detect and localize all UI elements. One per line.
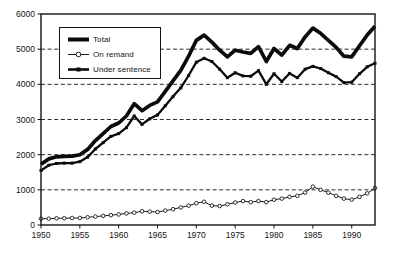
y-tick-label: 2000 (16, 150, 35, 160)
chart-figure: 0100020003000400050006000195019551960196… (0, 0, 398, 255)
on-remand-marker (327, 191, 331, 195)
under-sentence-marker (265, 83, 268, 86)
x-tick-label: 1965 (148, 230, 167, 240)
under-sentence-marker (195, 61, 198, 64)
on-remand-marker (334, 194, 338, 198)
on-remand-marker (78, 216, 82, 220)
under-sentence-marker (218, 68, 221, 71)
on-remand-marker (109, 213, 113, 217)
on-remand-marker (86, 215, 90, 219)
under-sentence-marker (86, 156, 89, 159)
on-remand-marker (140, 209, 144, 213)
on-remand-marker (117, 213, 121, 217)
under-sentence-marker (133, 114, 136, 117)
under-sentence-marker (117, 132, 120, 135)
on-remand-marker (342, 197, 346, 201)
on-remand-marker (218, 204, 222, 208)
under-sentence-marker (102, 141, 105, 144)
under-sentence-marker (226, 76, 229, 79)
x-tick-label: 1960 (109, 230, 128, 240)
under-sentence-marker (63, 162, 66, 165)
on-remand-marker (94, 215, 98, 219)
under-sentence-marker (280, 80, 283, 83)
y-tick-label: 0 (30, 220, 35, 230)
under-sentence-marker (94, 148, 97, 151)
on-remand-marker (257, 199, 261, 203)
on-remand-marker (171, 207, 175, 211)
on-remand-marker (163, 209, 167, 213)
on-remand-marker (47, 217, 51, 221)
y-tick-label: 4000 (16, 79, 35, 89)
under-sentence-marker (125, 126, 128, 129)
on-remand-marker (303, 191, 307, 195)
on-remand-marker (272, 198, 276, 202)
on-remand-marker (288, 195, 292, 199)
legend-label-under-sentence: Under sentence (93, 65, 151, 74)
under-sentence-marker (172, 95, 175, 98)
x-tick-label: 1980 (265, 230, 284, 240)
on-remand-marker (210, 204, 214, 208)
under-sentence-marker (164, 104, 167, 107)
y-tick-label: 1000 (16, 185, 35, 195)
under-sentence-marker (47, 164, 50, 167)
under-sentence-marker (241, 74, 244, 77)
x-tick-label: 1990 (342, 230, 361, 240)
under-sentence-marker (187, 74, 190, 77)
on-remand-marker (125, 212, 129, 216)
under-sentence-marker (366, 65, 369, 68)
under-sentence-marker (140, 123, 143, 126)
on-remand-marker (296, 194, 300, 198)
on-remand-marker (319, 188, 323, 192)
on-remand-marker (195, 201, 199, 205)
on-remand-marker (264, 200, 268, 204)
under-sentence-marker (78, 160, 81, 163)
under-sentence-marker (342, 81, 345, 84)
on-remand-marker (55, 217, 59, 221)
on-remand-marker (280, 197, 284, 201)
on-remand-line (41, 187, 375, 219)
on-remand-marker (233, 201, 237, 205)
on-remand-marker (350, 198, 354, 202)
x-tick-label: 1970 (187, 230, 206, 240)
under-sentence-marker (156, 113, 159, 116)
under-sentence-marker (304, 68, 307, 71)
under-sentence-marker (358, 72, 361, 75)
y-tick-label: 5000 (16, 44, 35, 54)
total-line-swatch-icon (67, 35, 90, 44)
x-tick-label: 1955 (70, 230, 89, 240)
on-remand-marker (311, 185, 315, 189)
under-sentence-marker (311, 65, 314, 68)
under-sentence-marker (203, 57, 206, 60)
under-sentence-marker (319, 67, 322, 70)
on-remand-marker (156, 210, 160, 214)
legend-label-on-remand: On remand (93, 50, 134, 59)
under-sentence-marker (234, 71, 237, 74)
legend-item-under-sentence: Under sentence (60, 62, 160, 77)
x-tick-label: 1975 (226, 230, 245, 240)
on-remand-marker (179, 206, 183, 210)
under-sentence-marker (210, 60, 213, 63)
on-remand-marker (70, 216, 74, 220)
legend-label-total: Total (93, 35, 110, 44)
on-remand-line-swatch-icon (67, 50, 90, 59)
y-tick-label: 6000 (16, 9, 35, 19)
on-remand-marker (148, 210, 152, 214)
x-tick-label: 1985 (303, 230, 322, 240)
on-remand-marker (63, 217, 67, 221)
under-sentence-line-swatch-icon (67, 65, 90, 74)
under-sentence-marker (179, 86, 182, 89)
on-remand-marker (226, 202, 230, 206)
legend-item-total: Total (60, 32, 160, 47)
under-sentence-marker (109, 135, 112, 138)
on-remand-marker (187, 204, 191, 208)
under-sentence-marker (148, 117, 151, 120)
y-tick-label: 3000 (16, 115, 35, 125)
under-sentence-marker (273, 72, 276, 75)
under-sentence-marker (288, 72, 291, 75)
under-sentence-marker (350, 81, 353, 84)
on-remand-marker (249, 200, 253, 204)
legend: Total On remand Under sentence (59, 27, 161, 79)
on-remand-marker (202, 200, 206, 204)
under-sentence-marker (327, 71, 330, 74)
under-sentence-marker (296, 76, 299, 79)
